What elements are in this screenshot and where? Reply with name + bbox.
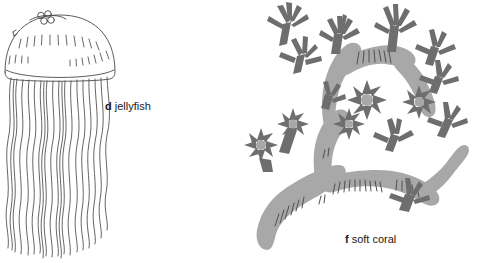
coral-polyp-star: [402, 85, 436, 119]
label-soft-coral: fsoft coral: [345, 234, 396, 245]
coral-polyp: [244, 128, 278, 172]
label-jellyfish: djellyfish: [105, 101, 151, 112]
jellyfish-tentacles: [6, 77, 109, 258]
jellyfish-hatch-right: [70, 51, 109, 66]
panel-jellyfish: [0, 0, 240, 263]
coral-polyp: [267, 2, 309, 46]
coral-branch-right-tip: [416, 145, 469, 196]
label-jellyfish-letter: d: [105, 100, 112, 112]
jellyfish-bell-notch: [13, 30, 17, 36]
label-jellyfish-text: jellyfish: [115, 100, 151, 112]
coral-polyp: [374, 4, 417, 52]
jellyfish-hatch-left: [9, 55, 28, 64]
jellyfish-hatch-upper: [19, 35, 99, 50]
jellyfish-bell-rim: [6, 70, 114, 78]
label-soft-coral-text: soft coral: [352, 233, 397, 245]
label-soft-coral-letter: f: [345, 233, 349, 245]
coral-polyp-star: [347, 80, 387, 120]
soft-coral-illustration: [239, 0, 479, 263]
figure-marine-invertebrates: djellyfish fsoft coral: [0, 0, 479, 263]
coral-polyp: [373, 118, 414, 152]
coral-polyp: [277, 108, 309, 154]
jellyfish-illustration: [0, 0, 240, 263]
panel-soft-coral: [239, 0, 479, 263]
